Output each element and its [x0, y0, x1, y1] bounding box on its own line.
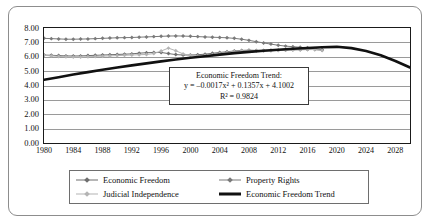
series-marker	[145, 35, 149, 39]
y-tick-label: 8.00	[24, 24, 39, 33]
series-marker	[44, 36, 46, 40]
series-marker	[49, 54, 53, 58]
series-marker	[262, 41, 266, 45]
series-marker	[44, 53, 46, 57]
series-marker	[284, 44, 288, 48]
x-tick-label: 1980	[36, 146, 52, 156]
x-tick-label: 2028	[387, 146, 403, 156]
series-marker	[79, 37, 83, 41]
x-tick-label: 2008	[241, 146, 257, 156]
series-marker	[232, 36, 236, 40]
series-marker	[166, 52, 170, 56]
series-marker	[101, 36, 105, 40]
x-tick-label: 2000	[182, 146, 198, 156]
series-marker	[57, 37, 61, 41]
legend-swatch-icon	[76, 190, 98, 198]
series-marker	[123, 36, 127, 40]
series-marker	[196, 35, 200, 39]
series-marker	[174, 49, 178, 53]
x-tick-label: 2020	[329, 146, 345, 156]
series-marker	[218, 36, 222, 40]
legend-label: Judicial Independence	[103, 189, 179, 199]
y-tick-label: 4.00	[24, 81, 39, 90]
x-tick-label: 1984	[65, 146, 81, 156]
x-tick-label: 1988	[95, 146, 111, 156]
series-marker	[137, 35, 141, 39]
series-marker	[225, 36, 229, 40]
legend-label: Property Rights	[246, 175, 300, 185]
x-tick-label: 1992	[124, 146, 140, 156]
legend-item[interactable]: Property Rights	[219, 175, 362, 185]
legend-label: Economic Freedom	[103, 175, 170, 185]
legend-item[interactable]: Economic Freedom Trend	[219, 189, 362, 199]
x-tick-label: 1996	[153, 146, 169, 156]
series-marker	[174, 53, 178, 57]
series-marker	[254, 40, 258, 44]
x-tick-label: 2004	[212, 146, 228, 156]
legend-swatch-icon	[219, 176, 241, 184]
trend-callout-r-squared: R² = 0.9824	[220, 92, 258, 102]
series-marker	[181, 34, 185, 38]
y-axis-tick-labels: 8.007.006.005.004.003.002.001.000.00	[9, 7, 43, 147]
series-marker	[247, 38, 251, 42]
legend-label: Economic Freedom Trend	[246, 189, 335, 199]
y-tick-label: 7.00	[24, 38, 39, 47]
legend-swatch-icon	[219, 190, 241, 198]
figure-frame: 8.007.006.005.004.003.002.001.000.00 198…	[8, 6, 422, 216]
y-tick-label: 1.00	[24, 124, 39, 133]
series-marker	[49, 37, 53, 41]
series-marker	[93, 37, 97, 41]
y-tick-label: 6.00	[24, 52, 39, 61]
series-marker	[159, 34, 163, 38]
y-tick-label: 5.00	[24, 67, 39, 76]
series-marker	[166, 46, 170, 50]
chart-legend: Economic FreedomProperty RightsJudicial …	[69, 170, 369, 204]
series-marker	[210, 35, 214, 39]
series-marker	[188, 34, 192, 38]
series-marker	[71, 37, 75, 41]
series-marker	[276, 43, 280, 47]
trend-callout-title: Economic Freedom Trend:	[196, 71, 282, 81]
x-tick-label: 2024	[358, 146, 374, 156]
series-marker	[166, 34, 170, 38]
series-marker	[86, 37, 90, 41]
series-marker	[115, 36, 119, 40]
legend-swatch-icon	[76, 176, 98, 184]
series-marker	[152, 35, 156, 39]
series-marker	[174, 34, 178, 38]
series-marker	[240, 37, 244, 41]
series-marker	[203, 35, 207, 39]
series-marker	[64, 37, 68, 41]
trend-equation-callout: Economic Freedom Trend: y = –0.0017x² + …	[169, 67, 309, 105]
chart-area: 8.007.006.005.004.003.002.001.000.00 198…	[9, 7, 423, 157]
series-marker	[320, 48, 324, 52]
series-marker	[269, 42, 273, 46]
x-axis-tick-labels: 1980198419881992199620002004200820122016…	[43, 146, 411, 160]
legend-item[interactable]: Economic Freedom	[76, 175, 219, 185]
y-tick-label: 3.00	[24, 95, 39, 104]
legend-item[interactable]: Judicial Independence	[76, 189, 219, 199]
x-tick-label: 2012	[270, 146, 286, 156]
x-tick-label: 2016	[300, 146, 316, 156]
y-tick-label: 2.00	[24, 110, 39, 119]
series-marker	[130, 36, 134, 40]
series-marker	[108, 36, 112, 40]
trend-callout-equation: y = –0.0017x² + 0.1357x + 4.1002	[184, 81, 294, 91]
